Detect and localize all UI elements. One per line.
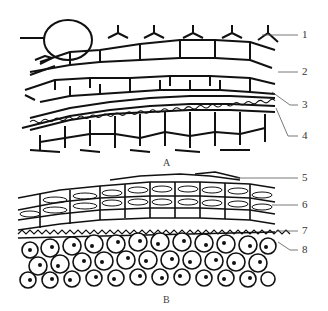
label-3: 3 — [302, 99, 308, 110]
panel-a-caption: A — [163, 158, 170, 168]
label-7: 7 — [302, 225, 308, 236]
label-2: 2 — [302, 66, 308, 77]
label-5: 5 — [302, 172, 308, 183]
panel-b-caption: B — [163, 295, 170, 305]
label-6: 6 — [302, 199, 308, 210]
panel-b-drawing — [0, 0, 328, 311]
botanical-cross-section-figure: 1 2 3 4 5 6 7 8 A B — [0, 0, 328, 311]
label-4: 4 — [302, 130, 308, 141]
label-1: 1 — [302, 29, 308, 40]
label-8: 8 — [302, 244, 308, 255]
